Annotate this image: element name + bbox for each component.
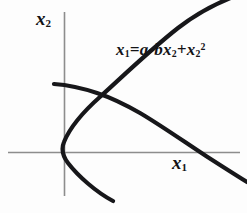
diagram-canvas <box>0 0 247 213</box>
equation-equals-sign: = <box>130 40 140 59</box>
y-axis-label: x2 <box>36 8 51 30</box>
x-axis-label-text: x <box>172 152 182 173</box>
equation-annotation: x1=a-bx2+x22 <box>116 40 206 60</box>
second-curve <box>54 84 247 182</box>
equation-term-b-coefficient: b <box>154 40 163 59</box>
equation-plus-sign: + <box>177 40 187 59</box>
y-axis-label-text: x <box>36 8 46 29</box>
equation-lhs-var: x <box>116 40 125 59</box>
x-axis-label: x1 <box>172 152 187 174</box>
equation-term-c-exponent: 2 <box>201 41 206 52</box>
equation-term-b-variable: x <box>163 40 172 59</box>
y-axis-label-subscript: 2 <box>46 17 52 29</box>
x-axis-label-subscript: 1 <box>182 161 188 173</box>
parabola-isocline-diagram: x2 x1 x1=a-bx2+x22 <box>0 0 247 213</box>
parabola-curve <box>62 0 247 201</box>
